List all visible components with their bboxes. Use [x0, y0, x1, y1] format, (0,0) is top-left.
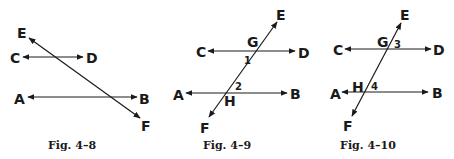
label-f: F [141, 118, 151, 134]
label-f: F [200, 120, 210, 136]
label-d: D [433, 42, 445, 58]
caption-fig-4-10: Fig. 4–10 [340, 139, 396, 152]
figure-4-9: E C D G 1 A B 2 H F Fig. 4–9 [173, 7, 310, 152]
transversal-ef [29, 38, 140, 118]
label-a: A [173, 87, 184, 103]
label-e: E [400, 7, 410, 23]
angle-2: 2 [235, 81, 242, 92]
label-a: A [330, 86, 341, 102]
caption-fig-4-8: Fig. 4–8 [48, 139, 96, 152]
label-e: E [17, 25, 27, 41]
label-a: A [14, 91, 25, 107]
figure-4-8: E C D A B F Fig. 4–8 [10, 25, 151, 152]
angle-1: 1 [244, 55, 251, 66]
label-d: D [86, 50, 98, 66]
angle-4: 4 [371, 81, 378, 92]
label-g: G [247, 34, 259, 50]
label-c: C [10, 50, 20, 66]
transversal-ef [209, 22, 277, 117]
caption-fig-4-9: Fig. 4–9 [203, 139, 251, 152]
label-d: D [298, 45, 310, 61]
label-h: H [352, 79, 364, 95]
label-c: C [333, 42, 343, 58]
diagram-canvas: E C D A B F Fig. 4–8 E C D G 1 A B 2 H F… [0, 0, 454, 159]
label-g: G [377, 34, 389, 50]
label-b: B [432, 85, 443, 101]
label-c: C [196, 44, 206, 60]
label-h: H [224, 93, 236, 109]
label-f: F [343, 118, 353, 134]
figure-4-10: E C D G 3 A B H 4 F Fig. 4–10 [330, 7, 445, 152]
label-b: B [139, 91, 150, 107]
angle-3: 3 [394, 39, 401, 50]
label-b: B [290, 86, 301, 102]
label-e: E [276, 7, 286, 23]
